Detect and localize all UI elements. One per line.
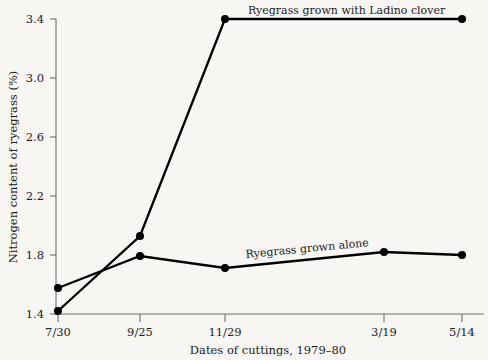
chart-container: 3.4 3.0 2.6 2.2 1.8 1.4 7/30 9/25 11/29 …	[0, 0, 488, 360]
y-tick-label-0: 3.4	[26, 12, 44, 26]
data-point-clover-5-14	[458, 15, 466, 23]
y-tick-label-4: 1.8	[26, 248, 44, 262]
data-point-alone-7-30	[54, 284, 62, 292]
series-annotation-clover: Ryegrass grown with Ladino clover	[248, 4, 446, 17]
data-point-alone-5-14	[458, 251, 466, 259]
data-point-clover-7-30	[54, 307, 62, 315]
y-axis-ticks	[50, 19, 56, 314]
x-tick-label-3: 3/19	[371, 325, 397, 339]
x-tick-label-2: 11/29	[208, 325, 241, 339]
series-annotation-alone: Ryegrass grown alone	[245, 236, 369, 261]
y-tick-label-1: 3.0	[26, 71, 44, 85]
series-points-clover	[54, 15, 466, 315]
series-line-clover	[58, 19, 462, 311]
x-axis-ticks	[58, 314, 462, 322]
line-chart: 3.4 3.0 2.6 2.2 1.8 1.4 7/30 9/25 11/29 …	[0, 0, 488, 360]
x-axis-title: Dates of cuttings, 1979–80	[190, 343, 346, 357]
y-tick-label-3: 2.2	[26, 189, 44, 203]
y-tick-label-2: 2.6	[26, 130, 44, 144]
data-point-alone-11-29	[221, 264, 229, 272]
y-axis-title: Nitrogen content of ryegrass (%)	[6, 71, 20, 264]
data-point-clover-11-29	[221, 15, 229, 23]
x-tick-label-0: 7/30	[45, 325, 71, 339]
data-point-clover-9-25	[136, 232, 144, 240]
x-tick-label-1: 9/25	[127, 325, 153, 339]
data-point-alone-3-19	[380, 248, 388, 256]
data-point-alone-9-25	[136, 252, 144, 260]
y-tick-label-5: 1.4	[26, 307, 44, 321]
x-tick-label-4: 5/14	[449, 325, 475, 339]
